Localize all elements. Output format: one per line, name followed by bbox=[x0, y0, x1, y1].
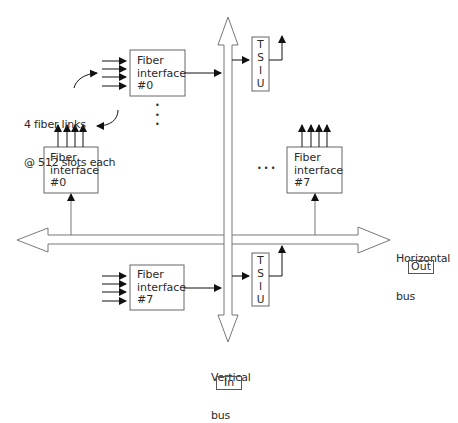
fiber-links-note-line2: @ 512 slots each bbox=[24, 157, 115, 170]
tsiu-top-s: S bbox=[252, 51, 269, 64]
vertical-bus-line2: bus bbox=[211, 410, 251, 423]
tsiu-top-label: T S I U bbox=[252, 38, 269, 90]
vertical-bus-arrow bbox=[218, 17, 238, 342]
callout-arrow-to-top-links bbox=[74, 73, 97, 88]
fiber-link-outputs-right bbox=[302, 125, 327, 147]
in-tag: In bbox=[216, 376, 242, 390]
tsiu-bottom-output bbox=[269, 246, 282, 276]
fiber-link-inputs-bottom bbox=[102, 276, 126, 301]
fiber-top-0-line1: Fiber bbox=[137, 55, 186, 68]
fiber-interface-bottom-7: Fiber interface #7 bbox=[137, 269, 186, 307]
ellipsis-horizontal: • • • bbox=[257, 163, 275, 176]
fiber-bottom-7-line1: Fiber bbox=[137, 269, 186, 282]
tsiu-top-t: T bbox=[252, 38, 269, 51]
tsiu-top-u: U bbox=[252, 77, 269, 90]
fiber-right-7-line1: Fiber bbox=[294, 152, 343, 165]
fiber-interface-top-0: Fiber interface #0 bbox=[137, 55, 186, 93]
horizontal-bus-line2: bus bbox=[396, 291, 450, 304]
tsiu-bottom-s: S bbox=[252, 267, 269, 280]
fiber-links-note: 4 fiber links @ 512 slots each bbox=[24, 94, 115, 182]
fiber-interface-right-7: Fiber interface #7 bbox=[294, 152, 343, 190]
tsiu-bottom-label: T S I U bbox=[252, 254, 269, 306]
out-tag: Out bbox=[408, 260, 434, 274]
horizontal-bus-arrow bbox=[17, 227, 390, 253]
fiber-top-0-line3: #0 bbox=[137, 80, 186, 93]
tsiu-bottom-t: T bbox=[252, 254, 269, 267]
fiber-link-inputs-top bbox=[102, 61, 126, 86]
ellipsis-vertical: • • • bbox=[155, 101, 160, 130]
fiber-right-7-line3: #7 bbox=[294, 177, 343, 190]
fiber-links-note-line1: 4 fiber links bbox=[24, 119, 115, 132]
tsiu-top-i: I bbox=[252, 64, 269, 77]
tsiu-top-output bbox=[269, 36, 282, 60]
tsiu-bottom-i: I bbox=[252, 280, 269, 293]
fiber-bottom-7-line3: #7 bbox=[137, 294, 186, 307]
tsiu-bottom-u: U bbox=[252, 293, 269, 306]
